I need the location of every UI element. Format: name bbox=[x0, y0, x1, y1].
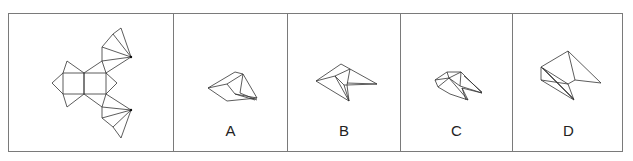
option-b[interactable]: B bbox=[287, 14, 400, 151]
option-a-label: A bbox=[174, 122, 287, 140]
puzzle-frame: A B C bbox=[8, 13, 623, 152]
net-figure bbox=[9, 14, 173, 153]
question-cell bbox=[9, 14, 173, 151]
option-d[interactable]: D bbox=[512, 14, 624, 151]
option-b-label: B bbox=[288, 122, 400, 140]
option-a[interactable]: A bbox=[173, 14, 287, 151]
option-c-label: C bbox=[401, 122, 512, 140]
option-d-label: D bbox=[513, 122, 624, 140]
option-c[interactable]: C bbox=[400, 14, 512, 151]
